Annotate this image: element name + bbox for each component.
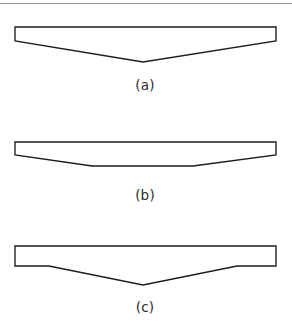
shape-outline-a [15, 27, 276, 62]
figure-container: (a) (b) (c) [0, 0, 292, 327]
beam-shapes-diagram: (a) (b) (c) [0, 0, 292, 327]
shape-outline-b [15, 142, 276, 166]
panel-label-c: (c) [136, 299, 155, 315]
panel-label-b: (b) [135, 187, 155, 203]
shape-outline-c [15, 246, 276, 285]
panel-label-a: (a) [135, 77, 154, 93]
